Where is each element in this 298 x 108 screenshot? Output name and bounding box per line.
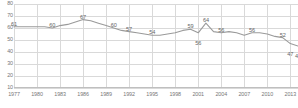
data-point-label: 56 (195, 41, 201, 47)
x-axis-tick-labels: 1977198019831986198919921995199820012004… (14, 92, 298, 104)
x-axis-tick-label: 2001 (192, 92, 204, 97)
plot-area: 6160676057545956645656524745 (14, 4, 298, 88)
x-axis-tick-label: 2004 (215, 92, 227, 97)
data-point-label: 67 (80, 15, 86, 21)
y-axis-tick-label: 20 (0, 73, 13, 78)
data-point-label: 47 (287, 52, 293, 58)
x-axis-tick-label: 1977 (8, 92, 20, 97)
data-point-label: 54 (149, 30, 155, 36)
y-axis-tick-label: 30 (0, 61, 13, 66)
y-axis-tick-label: 10 (0, 85, 13, 90)
data-point-label: 56 (218, 28, 224, 34)
data-point-label: 52 (280, 33, 286, 39)
data-point-label: 61 (11, 22, 17, 28)
x-axis-tick-label: 1992 (123, 92, 135, 97)
line-chart: 8070605040302010 61606760575459566456565… (0, 0, 298, 108)
data-point-label: 60 (49, 23, 55, 29)
x-axis-tick-label: 1983 (54, 92, 66, 97)
x-axis-tick-label: 1986 (77, 92, 89, 97)
data-point-label: 45 (295, 54, 298, 60)
data-point-label: 59 (188, 24, 194, 30)
data-point-label: 57 (126, 27, 132, 33)
y-axis-tick-label: 80 (0, 1, 13, 6)
x-axis-tick-label: 1998 (169, 92, 181, 97)
series-line (14, 4, 298, 88)
data-point-label: 64 (203, 18, 209, 24)
x-axis-tick-label: 2010 (262, 92, 274, 97)
y-axis-tick-label: 70 (0, 13, 13, 18)
x-axis-tick-label: 1989 (100, 92, 112, 97)
y-axis-tick-label: 50 (0, 37, 13, 42)
gridline-horizontal (14, 88, 298, 89)
x-axis-tick-label: 1980 (31, 92, 43, 97)
y-axis-tick-label: 40 (0, 49, 13, 54)
data-point-label: 56 (249, 28, 255, 34)
x-axis-tick-label: 1995 (146, 92, 158, 97)
x-axis-tick-label: 2013 (285, 92, 297, 97)
x-axis-tick-label: 2007 (238, 92, 250, 97)
data-point-label: 60 (111, 23, 117, 29)
y-axis-tick-labels: 8070605040302010 (0, 4, 13, 88)
